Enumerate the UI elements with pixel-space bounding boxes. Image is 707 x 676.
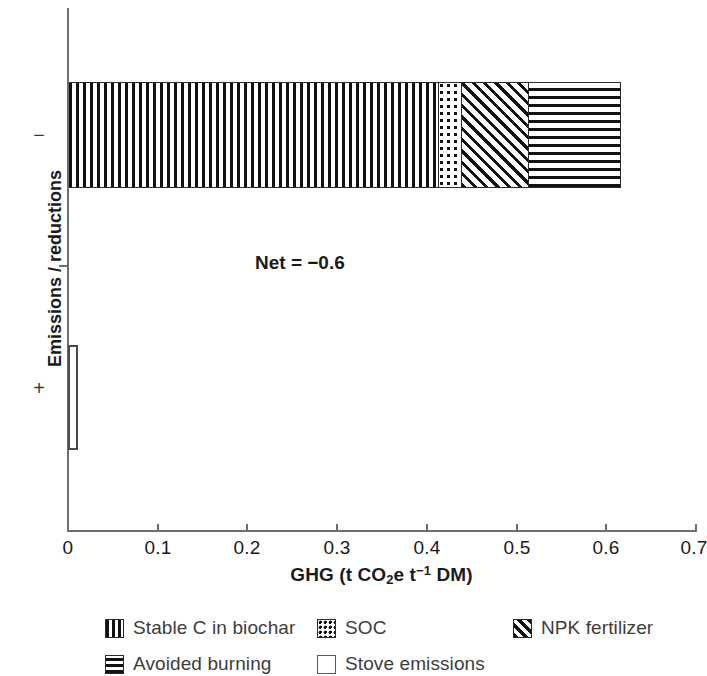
x-tick-0.4 (426, 524, 428, 532)
segment-divider-end (620, 82, 621, 188)
x-tick-0.3 (336, 524, 338, 532)
x-tick-0.7 (695, 524, 697, 532)
legend-swatch-vertical-stripes-icon (105, 619, 124, 638)
x-tick-0.5 (516, 524, 518, 532)
x-tick-0.2 (246, 524, 248, 532)
legend: Stable C in biochar SOC NPK fertilizer A… (0, 608, 707, 676)
x-tick-0 (67, 524, 69, 532)
x-tick-label-0: 0 (38, 537, 98, 559)
x-tick-label-0.2: 0.2 (217, 537, 277, 559)
legend-swatch-empty-box-icon (317, 655, 336, 674)
x-tick-label-0.5: 0.5 (487, 537, 547, 559)
legend-label-soc: SOC (345, 617, 386, 639)
x-tick-label-0.6: 0.6 (576, 537, 636, 559)
y-axis-title: Emissions / reductions (45, 129, 66, 409)
x-axis-title-superscript: −1 (416, 563, 431, 578)
bar-segment-stable-c-in-biochar (69, 82, 439, 188)
legend-label-stable-c-in-biochar: Stable C in biochar (133, 617, 295, 639)
legend-label-npk-fertilizer: NPK fertilizer (541, 617, 653, 639)
legend-item-soc: SOC (317, 617, 386, 639)
x-tick-0.1 (157, 524, 159, 532)
legend-label-avoided-burning: Avoided burning (133, 653, 271, 675)
x-tick-0.6 (605, 524, 607, 532)
segment-divider-3 (528, 82, 529, 188)
bar-segment-stove-emissions (68, 345, 78, 450)
x-axis-title-mid: e t (394, 564, 416, 585)
legend-item-stable-c-in-biochar: Stable C in biochar (105, 617, 295, 639)
legend-label-stove-emissions: Stove emissions (345, 653, 485, 675)
legend-swatch-horizontal-stripes-icon (105, 655, 124, 674)
segment-divider-2 (461, 82, 462, 188)
legend-swatch-diagonal-stripes-icon (513, 619, 532, 638)
legend-item-npk-fertilizer: NPK fertilizer (513, 617, 653, 639)
legend-swatch-dots-icon (317, 619, 336, 638)
x-tick-label-0.1: 0.1 (128, 537, 188, 559)
bar-segment-npk-fertilizer (462, 82, 529, 188)
x-axis-title-suffix: DM) (431, 564, 473, 585)
x-axis-line (67, 530, 696, 532)
bar-segment-soc (439, 82, 462, 188)
x-tick-label-0.4: 0.4 (397, 537, 457, 559)
bar-segment-avoided-burning (529, 82, 621, 188)
x-axis-title-subscript: 2 (386, 572, 393, 587)
x-tick-label-0.7: 0.7 (664, 537, 707, 559)
segment-divider-1 (438, 82, 439, 188)
legend-item-stove-emissions: Stove emissions (317, 653, 485, 675)
x-axis-title: GHG (t CO2e t−1 DM) (67, 563, 696, 587)
net-value-annotation: Net = −0.6 (255, 252, 345, 274)
x-tick-label-0.3: 0.3 (307, 537, 367, 559)
legend-item-avoided-burning: Avoided burning (105, 653, 271, 675)
x-axis-title-prefix: GHG (t CO (290, 564, 386, 585)
ghg-stacked-bar-chart: 0 0.1 0.2 0.3 0.4 0.5 0.6 0.7 − + Net = … (0, 0, 707, 676)
